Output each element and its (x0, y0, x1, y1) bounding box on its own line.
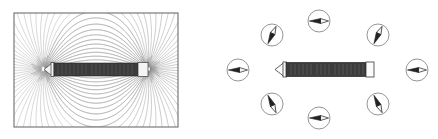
compass-bottom-left[interactable] (261, 93, 283, 115)
compass-bottom-right[interactable] (367, 93, 389, 115)
solenoid-north-cap (366, 62, 374, 77)
solenoid-body (286, 63, 366, 77)
compass-bottom-center[interactable] (308, 107, 330, 129)
compass-top-right[interactable] (367, 24, 389, 46)
right-solenoid (275, 62, 374, 77)
right-panel-canvas (0, 0, 438, 139)
compass-middle-right[interactable] (406, 59, 428, 81)
compass-top-center[interactable] (308, 10, 330, 32)
compass-pivot (318, 117, 320, 119)
compass-pivot (318, 20, 320, 22)
compass-top-left[interactable] (261, 24, 283, 46)
right-panel-compass-array (0, 0, 438, 139)
compass-pivot (416, 69, 418, 71)
compass-pivot (237, 69, 239, 71)
magnetic-field-figure (0, 0, 438, 139)
compass-middle-left[interactable] (227, 59, 249, 81)
